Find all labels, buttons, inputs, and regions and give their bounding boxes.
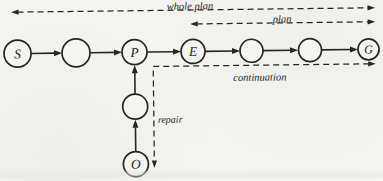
continuation-right-arrowhead	[368, 61, 376, 66]
figure-tilt-group: whole plan plan continuation repair	[3, 0, 380, 178]
node-e-label: E	[188, 44, 198, 59]
node-blank1-circle	[62, 39, 90, 67]
continuation-repair-span: continuation repair	[151, 61, 377, 168]
node-s-label: S	[14, 46, 21, 61]
whole-plan-span: whole plan	[11, 0, 375, 15]
plan-structure-figure: whole plan plan continuation repair	[0, 0, 383, 181]
node-blank3-circle	[298, 38, 321, 61]
plan-span: plan	[190, 12, 375, 26]
main-chain-nodes: S P E G	[4, 35, 379, 68]
whole-plan-right-arrowhead	[367, 5, 375, 10]
repair-down-arrowhead	[152, 160, 157, 168]
node-o-label: O	[131, 157, 141, 172]
node-blank2-circle	[240, 39, 263, 62]
plan-label: plan	[272, 13, 292, 24]
edge-blank1-to-p-arrowhead	[114, 49, 122, 55]
edge-o-to-blank4-arrowhead	[132, 120, 138, 128]
edge-e-to-blank2-arrowhead	[232, 48, 240, 54]
node-g-label: G	[364, 42, 373, 56]
plan-right-arrowhead	[368, 19, 376, 24]
edge-s-to-blank1-arrowhead	[54, 50, 62, 56]
repair-label: repair	[158, 114, 183, 125]
whole-plan-left-arrowhead	[11, 10, 19, 15]
whole-plan-label: whole plan	[167, 0, 214, 12]
node-blank4-circle	[123, 94, 148, 119]
plan-left-arrowhead	[190, 21, 198, 26]
edge-p-to-e-arrowhead	[173, 49, 181, 55]
node-p-label: P	[129, 45, 138, 60]
scan-artifact-band	[0, 172, 383, 178]
continuation-label: continuation	[233, 71, 286, 83]
edge-blank2-to-blank3-arrowhead	[290, 47, 298, 53]
edge-blank3-to-g-arrowhead	[350, 46, 358, 52]
edge-blank4-to-p-arrowhead	[132, 65, 138, 73]
